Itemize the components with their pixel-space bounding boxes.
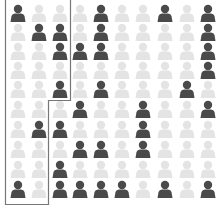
person-icon-muted [155,80,175,99]
person-icon-highlighted [50,42,70,61]
person-icon-highlighted [50,120,70,139]
person-icon-muted [133,23,153,42]
person-icon-muted [133,4,153,23]
person-icon-muted [177,4,197,23]
person-icon-highlighted [198,100,217,119]
person-icon-highlighted [198,42,217,61]
person-icon-muted [112,23,132,42]
person-icon-highlighted [91,140,111,159]
person-icon-muted [155,120,175,139]
person-icon-highlighted [198,61,217,80]
person-icon-muted [8,61,28,80]
pictogram-grid [0,0,217,207]
person-icon-highlighted [29,120,49,139]
person-icon-muted [177,140,197,159]
person-icon-muted [8,23,28,42]
person-icon-muted [133,42,153,61]
person-icon-muted [155,100,175,119]
person-icon-muted [133,160,153,179]
person-icon-highlighted [133,140,153,159]
person-icon-muted [29,4,49,23]
person-icon-highlighted [91,180,111,199]
person-icon-muted [8,140,28,159]
person-icon-highlighted [133,120,153,139]
person-icon-highlighted [91,4,111,23]
person-icon-muted [91,120,111,139]
person-icon-highlighted [198,180,217,199]
person-icon-muted [133,61,153,80]
person-icon-muted [155,160,175,179]
person-icon-highlighted [70,180,90,199]
person-icon-muted [8,42,28,61]
person-icon-muted [70,4,90,23]
person-icon-muted [112,4,132,23]
person-icon-muted [177,180,197,199]
person-icon-muted [29,180,49,199]
person-icon-muted [8,100,28,119]
person-icon-muted [177,160,197,179]
person-icon-muted [8,120,28,139]
person-icon-muted [29,42,49,61]
person-icon-muted [70,160,90,179]
person-icon-highlighted [70,140,90,159]
person-icon-muted [112,42,132,61]
person-icon-muted [50,100,70,119]
person-icon-muted [29,61,49,80]
person-icon-muted [177,120,197,139]
person-icon-muted [91,61,111,80]
person-icon-muted [29,100,49,119]
person-icon-highlighted [50,23,70,42]
person-icon-highlighted [155,180,175,199]
person-icon-highlighted [50,160,70,179]
person-icon-muted [155,140,175,159]
person-icon-muted [177,61,197,80]
person-icon-muted [50,140,70,159]
person-icon-muted [29,140,49,159]
person-icon-muted [155,42,175,61]
person-icon-muted [177,100,197,119]
person-icon-highlighted [8,4,28,23]
person-icon-highlighted [198,4,217,23]
person-icon-highlighted [70,42,90,61]
person-icon-muted [112,80,132,99]
person-icon-muted [112,140,132,159]
person-icon-muted [155,61,175,80]
person-icon-muted [112,120,132,139]
person-icon-muted [70,23,90,42]
person-icon-highlighted [8,180,28,199]
person-icon-highlighted [112,180,132,199]
person-icon-muted [70,61,90,80]
person-icon-highlighted [155,4,175,23]
person-icon-muted [133,80,153,99]
person-icon-muted [198,80,217,99]
person-icon-muted [29,80,49,99]
person-icon-highlighted [50,80,70,99]
person-icon-highlighted [91,80,111,99]
person-icon-muted [91,100,111,119]
person-icon-muted [8,80,28,99]
person-icon-muted [50,61,70,80]
person-icon-muted [8,160,28,179]
person-icon-highlighted [177,80,197,99]
person-icon-muted [29,160,49,179]
person-icon-highlighted [91,42,111,61]
person-icon-muted [198,120,217,139]
person-icon-muted [133,180,153,199]
person-icon-muted [91,160,111,179]
person-icon-muted [198,160,217,179]
person-icon-highlighted [70,100,90,119]
person-icon-muted [70,80,90,99]
person-icon-muted [155,23,175,42]
person-icon-muted [198,140,217,159]
person-icon-muted [70,120,90,139]
person-icon-muted [112,100,132,119]
person-icon-highlighted [133,100,153,119]
person-icon-muted [50,4,70,23]
person-icon-highlighted [29,23,49,42]
person-icon-muted [112,160,132,179]
person-icon-highlighted [198,23,217,42]
person-icon-muted [177,23,197,42]
person-icon-muted [177,42,197,61]
person-icon-highlighted [91,23,111,42]
person-icon-highlighted [50,180,70,199]
